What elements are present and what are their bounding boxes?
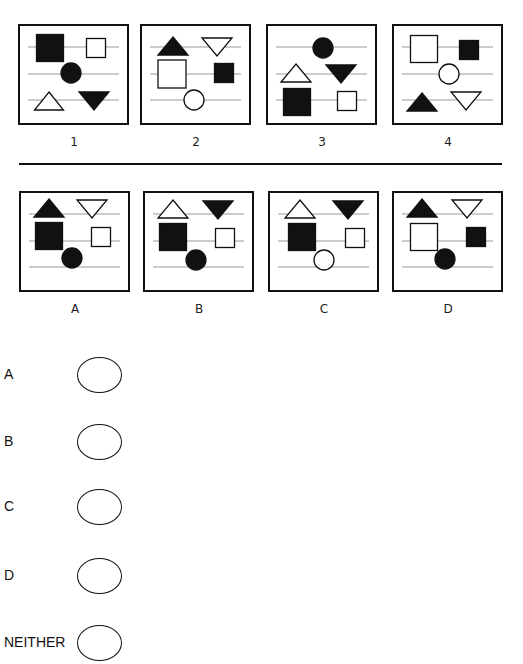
choice-label-c: C (4, 498, 14, 514)
choice-bubble-b[interactable] (77, 424, 122, 460)
choice-label-d: D (4, 567, 14, 583)
black-circle-shape (186, 250, 206, 270)
white-square-shape (411, 224, 438, 251)
question-panel-4 (392, 24, 503, 125)
white-square-shape (346, 229, 365, 248)
white-square-shape (158, 60, 186, 88)
choice-label-b: B (4, 433, 13, 449)
question-panel-label: 1 (18, 135, 130, 149)
question-panel-label: 2 (140, 135, 252, 149)
question-panel-1 (18, 24, 129, 125)
white-square-shape (92, 228, 111, 247)
question-panel-label: 4 (392, 135, 504, 149)
choice-label-a: A (4, 366, 13, 382)
divider-line (19, 163, 502, 165)
question-panel-2 (140, 24, 251, 125)
black-square-shape (467, 228, 486, 247)
choice-bubble-a[interactable] (77, 357, 122, 393)
answer-panel-A (19, 191, 130, 292)
black-square-shape (289, 224, 316, 251)
black-square-shape (284, 89, 311, 116)
black-square-shape (36, 223, 63, 250)
question-panel-3 (266, 24, 377, 125)
answer-panel-C (268, 191, 379, 292)
choice-label-neither: NEITHER (4, 634, 65, 650)
black-square-shape (160, 224, 187, 251)
answer-panel-label: D (392, 302, 504, 316)
white-square-shape (338, 92, 357, 111)
white-circle-shape (184, 90, 204, 110)
answer-panel-label: A (19, 302, 131, 316)
choice-bubble-d[interactable] (77, 558, 122, 594)
choice-bubble-c[interactable] (77, 489, 122, 525)
white-square-shape (216, 229, 235, 248)
choice-bubble-neither[interactable] (77, 625, 122, 661)
black-circle-shape (435, 249, 455, 269)
white-square-shape (411, 36, 438, 63)
black-circle-shape (61, 63, 81, 83)
white-circle-shape (439, 64, 459, 84)
answer-panel-D (392, 191, 503, 292)
white-circle-shape (314, 250, 334, 270)
black-circle-shape (62, 248, 82, 268)
black-square-shape (215, 64, 234, 83)
question-panel-label: 3 (266, 135, 378, 149)
answer-panel-label: C (268, 302, 380, 316)
black-square-shape (37, 35, 64, 62)
answer-panel-label: B (143, 302, 255, 316)
black-square-shape (460, 41, 479, 60)
black-circle-shape (313, 38, 333, 58)
white-square-shape (87, 39, 106, 58)
answer-panel-B (143, 191, 254, 292)
